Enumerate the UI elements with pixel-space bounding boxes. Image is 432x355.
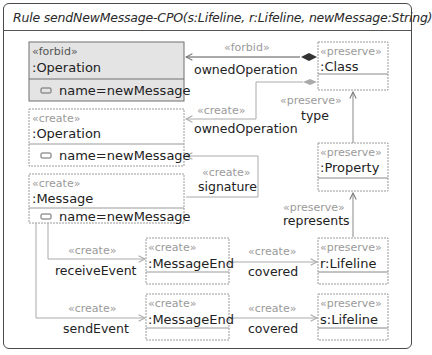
edge-label: covered: [248, 321, 298, 336]
edge-stereotype: «preserve»: [280, 94, 342, 107]
edge-label: ownedOperation: [194, 121, 298, 136]
node-stereotype: «create»: [32, 112, 80, 125]
node-stereotype: «preserve»: [320, 297, 382, 310]
edge-stereotype: «create»: [202, 166, 250, 179]
node-create-operation[interactable]: «create» :Operation name=newMessage: [29, 109, 191, 166]
node-preserve-property[interactable]: «preserve» :Property: [318, 143, 388, 191]
edge-label: receiveEvent: [55, 263, 137, 278]
node-stereotype: «create»: [32, 177, 80, 190]
edge-preserve-represents[interactable]: «preserve» represents: [283, 193, 353, 237]
edge-create-send-event[interactable]: «create» sendEvent: [36, 223, 145, 336]
node-preserve-s-lifeline[interactable]: «preserve» s:Lifeline: [318, 294, 388, 340]
edge-create-receive-covered[interactable]: «create» covered: [230, 245, 317, 279]
node-preserve-class[interactable]: «preserve» :Class: [318, 42, 388, 90]
node-stereotype: «forbid»: [32, 45, 78, 58]
node-name: :Class: [320, 59, 359, 74]
node-stereotype: «preserve»: [320, 45, 382, 58]
edge-stereotype: «create»: [68, 302, 116, 315]
edge-create-signature[interactable]: «create» signature: [186, 156, 258, 197]
node-name: r:Lifeline: [320, 256, 376, 271]
node-attribute: name=newMessage: [59, 209, 191, 224]
edge-stereotype: «create»: [248, 245, 296, 258]
node-name: s:Lifeline: [320, 312, 378, 327]
node-name: :Property: [320, 160, 380, 175]
node-create-send-message-end[interactable]: «create» :MessageEnd: [146, 294, 234, 340]
edge-create-receive-event[interactable]: «create» receiveEvent: [48, 223, 145, 278]
edge-label: signature: [198, 179, 257, 194]
node-preserve-r-lifeline[interactable]: «preserve» r:Lifeline: [318, 238, 388, 284]
node-name: :Operation: [32, 60, 101, 75]
edge-label: type: [301, 108, 329, 123]
node-attribute: name=newMessage: [59, 148, 191, 163]
edge-label: covered: [248, 264, 298, 279]
edge-stereotype: «forbid»: [224, 41, 270, 54]
node-create-message[interactable]: «create» :Message name=newMessage: [29, 174, 191, 224]
edge-create-send-covered[interactable]: «create» covered: [230, 302, 317, 336]
node-create-receive-message-end[interactable]: «create» :MessageEnd: [146, 238, 234, 284]
node-stereotype: «preserve»: [320, 146, 382, 159]
edge-stereotype: «create»: [68, 244, 116, 257]
node-name: :MessageEnd: [148, 256, 234, 271]
node-attribute: name=newMessage: [59, 83, 191, 98]
node-stereotype: «create»: [148, 241, 196, 254]
edge-label: ownedOperation: [194, 62, 298, 77]
node-name: :Message: [32, 191, 93, 206]
node-name: :MessageEnd: [148, 312, 234, 327]
node-stereotype: «preserve»: [320, 241, 382, 254]
edge-stereotype: «create»: [248, 302, 296, 315]
node-name: :Operation: [32, 126, 101, 141]
edge-create-owned-operation[interactable]: «create» ownedOperation: [186, 79, 317, 136]
edge-stereotype: «create»: [197, 104, 245, 117]
node-stereotype: «create»: [148, 297, 196, 310]
edge-label: sendEvent: [63, 321, 129, 336]
edge-forbid-owned-operation[interactable]: «forbid» ownedOperation: [186, 41, 317, 77]
node-forbid-operation[interactable]: «forbid» :Operation name=newMessage: [29, 42, 191, 101]
edge-label: represents: [283, 213, 350, 228]
